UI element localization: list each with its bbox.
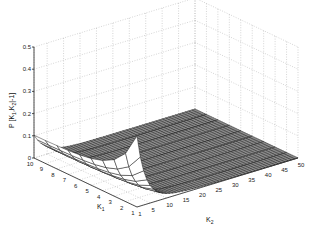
- svg-text:1: 1: [138, 211, 142, 217]
- svg-text:0.2: 0.2: [23, 111, 32, 117]
- svg-text:50: 50: [298, 162, 305, 168]
- svg-text:6: 6: [74, 183, 78, 189]
- svg-text:10: 10: [27, 161, 34, 167]
- svg-text:9: 9: [40, 166, 44, 172]
- svg-text:10: 10: [166, 202, 173, 208]
- svg-text:0.5: 0.5: [23, 44, 32, 50]
- z-axis-label: P [K1,K2|-1]: [8, 93, 17, 128]
- svg-text:8: 8: [51, 172, 55, 178]
- svg-text:7: 7: [63, 177, 67, 183]
- svg-text:5: 5: [151, 207, 155, 213]
- svg-text:5: 5: [86, 188, 90, 194]
- plot-canvas: 00.10.20.30.40.5123456789101510152025303…: [0, 0, 311, 231]
- svg-text:15: 15: [183, 197, 190, 203]
- svg-text:3: 3: [108, 199, 112, 205]
- svg-text:0.3: 0.3: [23, 88, 32, 94]
- svg-text:40: 40: [265, 172, 272, 178]
- svg-text:1: 1: [131, 210, 135, 216]
- svg-text:4: 4: [97, 194, 101, 200]
- svg-text:45: 45: [281, 167, 288, 173]
- svg-text:30: 30: [232, 182, 239, 188]
- svg-text:0.4: 0.4: [23, 66, 32, 72]
- k1-axis-label: K1: [97, 203, 105, 212]
- svg-text:0.1: 0.1: [23, 133, 32, 139]
- svg-text:2: 2: [120, 205, 124, 211]
- surface-mesh: [34, 109, 298, 194]
- svg-text:25: 25: [216, 187, 223, 193]
- svg-text:20: 20: [199, 192, 206, 198]
- k2-axis-label: K2: [206, 216, 214, 225]
- svg-text:35: 35: [248, 177, 255, 183]
- surface-plot-figure: 00.10.20.30.40.5123456789101510152025303…: [0, 0, 311, 231]
